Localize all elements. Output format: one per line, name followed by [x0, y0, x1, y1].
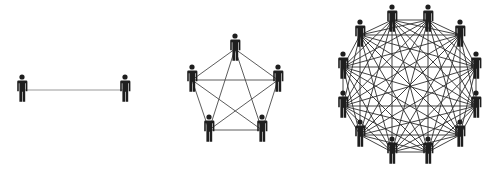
- network-diagram: [0, 0, 500, 180]
- connection-line: [235, 49, 278, 80]
- connection-line: [192, 49, 235, 80]
- connection-lines: [22, 20, 476, 152]
- person-icon: [187, 64, 197, 91]
- connection-line: [360, 35, 428, 152]
- person-icon: [471, 90, 481, 117]
- connection-line: [209, 80, 278, 130]
- person-icon: [273, 64, 283, 91]
- person-icon: [230, 33, 240, 60]
- diagram-canvas: [0, 0, 500, 180]
- connection-line: [192, 80, 262, 130]
- person-icon: [120, 74, 130, 101]
- people-layer: [17, 4, 481, 163]
- group-5-connections: [192, 49, 278, 130]
- person-icon: [338, 90, 348, 117]
- connection-line: [343, 35, 460, 67]
- connection-line: [209, 49, 235, 130]
- person-icon: [17, 74, 27, 101]
- connection-line: [235, 49, 262, 130]
- group-2-people: [17, 74, 130, 101]
- group-5-people: [187, 33, 283, 141]
